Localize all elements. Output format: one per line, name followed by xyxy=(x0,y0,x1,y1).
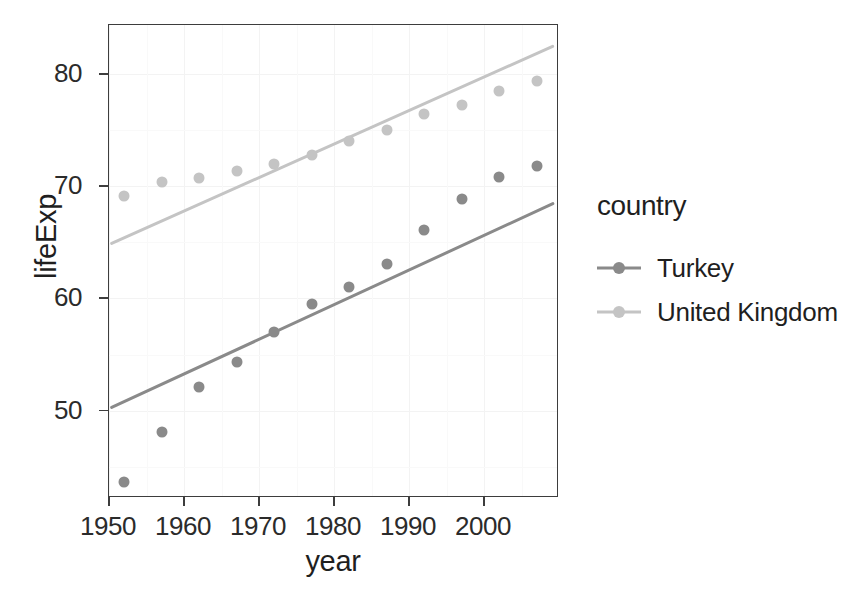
data-point xyxy=(306,299,317,310)
data-point xyxy=(119,477,130,488)
legend-key-point xyxy=(613,306,625,318)
gridline-h xyxy=(109,130,557,131)
x-tick-label: 2000 xyxy=(455,511,511,542)
chart-canvas: lifeExp 50607080 19501960197019801990200… xyxy=(0,0,843,594)
x-tick-label: 1980 xyxy=(305,511,361,542)
x-tick-label: 1970 xyxy=(230,511,286,542)
data-point xyxy=(231,166,242,177)
legend: country TurkeyUnited Kingdom xyxy=(597,190,838,334)
x-tick-mark xyxy=(408,497,410,506)
data-point xyxy=(344,136,355,147)
gridline-h xyxy=(109,411,557,412)
legend-item-turkey[interactable]: Turkey xyxy=(597,246,838,290)
x-tick-label: 1960 xyxy=(155,511,211,542)
data-point xyxy=(419,224,430,235)
x-tick-mark xyxy=(483,497,485,506)
y-tick-mark xyxy=(99,185,108,187)
data-point xyxy=(531,75,542,86)
data-point xyxy=(194,172,205,183)
y-tick-label: 70 xyxy=(54,170,82,201)
legend-item-label: United Kingdom xyxy=(657,297,838,328)
x-tick-mark xyxy=(108,497,110,506)
y-tick-mark xyxy=(99,73,108,75)
gridline-h xyxy=(109,298,557,299)
data-point xyxy=(456,100,467,111)
gridline-v xyxy=(334,25,335,496)
y-axis-tick-labels: 50607080 xyxy=(0,24,82,497)
gridline-v xyxy=(409,25,410,496)
gridline-v xyxy=(109,25,110,496)
x-tick-mark xyxy=(183,497,185,506)
legend-items: TurkeyUnited Kingdom xyxy=(597,246,838,334)
x-tick-label: 1950 xyxy=(80,511,136,542)
data-point xyxy=(344,281,355,292)
legend-item-united-kingdom[interactable]: United Kingdom xyxy=(597,290,838,334)
x-axis-title: year xyxy=(108,545,558,578)
data-point xyxy=(269,327,280,338)
data-point xyxy=(306,150,317,161)
y-tick-mark xyxy=(99,410,108,412)
legend-key-swatch xyxy=(597,297,641,327)
gridline-h xyxy=(109,355,557,356)
data-point xyxy=(119,190,130,201)
data-point xyxy=(531,161,542,172)
gridline-v xyxy=(447,25,448,496)
plot-area xyxy=(109,25,557,496)
data-point xyxy=(494,86,505,97)
gridline-v xyxy=(522,25,523,496)
data-point xyxy=(194,382,205,393)
gridline-v xyxy=(259,25,260,496)
x-tick-mark xyxy=(258,497,260,506)
y-tick-label: 50 xyxy=(54,394,82,425)
legend-key-swatch xyxy=(597,253,641,283)
regression-line-0 xyxy=(110,202,555,410)
x-tick-mark xyxy=(333,497,335,506)
gridline-v xyxy=(484,25,485,496)
gridline-v xyxy=(147,25,148,496)
gridline-h xyxy=(109,467,557,468)
data-point xyxy=(231,356,242,367)
data-point xyxy=(381,258,392,269)
data-point xyxy=(494,171,505,182)
data-point xyxy=(381,125,392,136)
legend-item-label: Turkey xyxy=(657,253,734,284)
data-point xyxy=(156,176,167,187)
gridline-v xyxy=(297,25,298,496)
gridline-h xyxy=(109,242,557,243)
gridline-v xyxy=(184,25,185,496)
gridline-v xyxy=(372,25,373,496)
plot-panel xyxy=(108,24,558,497)
data-point xyxy=(419,109,430,120)
y-tick-label: 60 xyxy=(54,282,82,313)
gridline-v xyxy=(222,25,223,496)
legend-key-point xyxy=(613,262,625,274)
legend-title: country xyxy=(597,190,838,222)
data-point xyxy=(269,158,280,169)
gridline-h xyxy=(109,186,557,187)
y-tick-mark xyxy=(99,297,108,299)
x-tick-label: 1990 xyxy=(380,511,436,542)
data-point xyxy=(156,427,167,438)
y-tick-label: 80 xyxy=(54,58,82,89)
data-point xyxy=(456,194,467,205)
